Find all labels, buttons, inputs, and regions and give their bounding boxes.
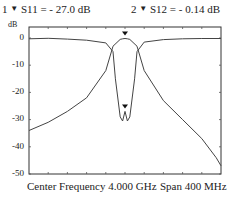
traces <box>29 38 221 166</box>
marker-glyphs <box>122 31 128 108</box>
plot-area <box>0 0 235 199</box>
trace-s11 <box>29 39 221 166</box>
span-label: Span 400 MHz <box>160 180 227 192</box>
marker-triangle-icon <box>122 31 128 35</box>
center-frequency-label: Center Frequency 4.000 GHz <box>27 180 157 192</box>
axes-box <box>29 27 221 174</box>
plot-frame <box>29 27 221 174</box>
trace-s12 <box>29 38 221 121</box>
marker-triangle-icon <box>122 104 128 108</box>
